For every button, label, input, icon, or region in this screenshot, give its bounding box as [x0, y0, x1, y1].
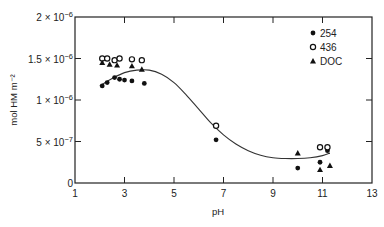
y-tick-label: 1 × 10−6 — [36, 93, 73, 106]
legend-label: 254 — [320, 28, 337, 39]
data-point-254 — [117, 77, 122, 82]
data-point-doc — [107, 61, 113, 66]
x-tick-label: 3 — [122, 188, 128, 199]
legend-label: DOC — [320, 56, 342, 67]
data-point-254 — [100, 83, 105, 88]
data-point-254 — [142, 81, 147, 86]
data-point-436 — [317, 145, 322, 150]
y-tick-label: 5 × 10−7 — [36, 135, 73, 148]
fit-curve-line — [100, 70, 330, 159]
y-tick-label: 0 — [67, 178, 73, 189]
y-tick-label: 2 × 10−6 — [36, 10, 73, 23]
chart: 135791113 05 × 10−71 × 10−61.5 × 10−62 ×… — [0, 0, 384, 227]
x-axis-label: pH — [212, 206, 224, 217]
legend-marker-254 — [311, 31, 316, 36]
data-point-436 — [117, 56, 122, 61]
data-point-254 — [130, 79, 135, 84]
data-point-254 — [122, 78, 127, 83]
x-tick-label: 13 — [366, 188, 378, 199]
x-tick-label: 5 — [171, 188, 177, 199]
legend: 254436DOC — [310, 28, 342, 67]
x-tick-label: 9 — [270, 188, 276, 199]
legend-label: 436 — [320, 42, 337, 53]
fit-curve — [100, 70, 330, 159]
data-point-doc — [327, 163, 333, 168]
y-tick-label: 1.5 × 10−6 — [28, 52, 73, 65]
data-point-doc — [129, 63, 135, 68]
data-point-254 — [112, 75, 117, 80]
data-point-doc — [139, 66, 145, 71]
x-tick-label: 7 — [221, 188, 227, 199]
x-tick-label: 1 — [72, 188, 78, 199]
data-point-254 — [214, 137, 219, 142]
data-point-436 — [325, 145, 330, 150]
data-point-436 — [213, 123, 218, 128]
data-point-254 — [105, 80, 110, 85]
data-point-436 — [129, 57, 134, 62]
y-axis-label: mol HM m⁻² — [8, 74, 19, 125]
legend-marker-doc — [310, 58, 316, 63]
data-point-254 — [295, 166, 300, 171]
data-point-436 — [139, 58, 144, 63]
data-point-doc — [317, 167, 323, 172]
data-point-436 — [105, 56, 110, 61]
legend-marker-436 — [310, 44, 315, 49]
data-point-254 — [318, 160, 323, 165]
data-points — [99, 56, 333, 172]
data-point-doc — [295, 150, 301, 155]
x-tick-label: 11 — [317, 188, 328, 199]
